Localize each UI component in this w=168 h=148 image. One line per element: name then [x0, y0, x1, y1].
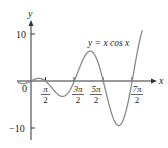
y-tick-label-10: 10 [16, 29, 26, 40]
x-tick-label-3pi-2: 3π 2 [72, 84, 84, 105]
y-axis-label: y [27, 8, 33, 19]
svg-text:5π: 5π [91, 84, 101, 94]
x-tick-label-pi-2: π 2 [41, 84, 50, 105]
svg-text:2: 2 [43, 95, 48, 105]
svg-text:3π: 3π [72, 84, 83, 94]
x-tick-label-7pi-2: 7π 2 [131, 84, 143, 105]
svg-text:2: 2 [94, 95, 99, 105]
svg-text:7π: 7π [132, 84, 142, 94]
svg-text:π: π [43, 84, 48, 94]
y-axis-arrow-icon [29, 20, 34, 26]
x-axis-arrow-icon [151, 79, 157, 84]
x-axis-label: x [158, 75, 164, 86]
svg-text:2: 2 [135, 95, 140, 105]
origin-label: 0 [22, 83, 27, 94]
y-tick-label-neg10: −10 [9, 123, 25, 134]
x-tick-label-5pi-2: 5π 2 [90, 84, 102, 105]
equation-annotation: y = x cos x [87, 38, 130, 48]
chart: y x 10 −10 0 π 2 3π 2 5π 2 7π 2 y = x co… [0, 0, 168, 148]
svg-text:2: 2 [76, 95, 81, 105]
